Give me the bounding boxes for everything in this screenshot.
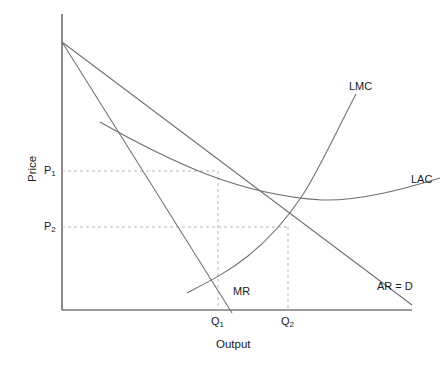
y-tick-p2: P2: [44, 221, 56, 232]
x-axis-title: Output: [216, 339, 251, 351]
lac-curve-label: LAC: [411, 174, 432, 185]
x-tick-q1-subscript: 1: [220, 320, 224, 329]
x-tick-q2-text: Q: [281, 315, 290, 327]
mr-curve-label: MR: [233, 286, 250, 297]
y-axis-title: Price: [27, 156, 39, 182]
y-tick-p1: P1: [44, 165, 56, 176]
y-tick-p2-subscript: 2: [51, 225, 55, 234]
y-tick-p1-subscript: 1: [51, 169, 55, 178]
x-tick-q1-text: Q: [211, 315, 220, 327]
lac-curve: [100, 122, 440, 200]
curves: [62, 42, 440, 313]
lmc-curve-label: LMC: [349, 81, 372, 92]
economics-diagram: [0, 0, 448, 368]
x-tick-q2-subscript: 2: [290, 320, 294, 329]
mr-line: [62, 42, 232, 313]
chart-canvas: Price Output P1 P2 Q1 Q2 LMC LAC MR AR =…: [0, 0, 448, 368]
x-tick-q2: Q2: [281, 316, 294, 327]
x-tick-q1: Q1: [211, 316, 224, 327]
guide-lines: [62, 171, 288, 310]
ar-d-curve-label: AR = D: [377, 281, 413, 292]
